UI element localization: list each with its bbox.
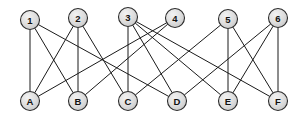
node-label-4: 4 — [172, 13, 178, 24]
node-layer: 123456ABCDEF — [21, 8, 288, 111]
node-5[interactable]: 5 — [219, 10, 238, 29]
graph-canvas: 123456ABCDEF — [0, 0, 307, 120]
node-label-1: 1 — [27, 15, 33, 26]
node-label-3: 3 — [125, 12, 130, 23]
edge-3-D — [133, 25, 172, 93]
node-label-A: A — [27, 96, 34, 107]
node-label-2: 2 — [75, 13, 80, 24]
node-label-E: E — [225, 96, 231, 107]
node-A[interactable]: A — [21, 92, 40, 111]
node-label-C: C — [125, 96, 132, 107]
node-C[interactable]: C — [119, 92, 138, 111]
node-D[interactable]: D — [168, 92, 187, 111]
node-6[interactable]: 6 — [269, 9, 288, 28]
node-2[interactable]: 2 — [69, 9, 88, 28]
node-label-F: F — [275, 96, 281, 107]
edge-3-F — [136, 22, 269, 97]
node-4[interactable]: 4 — [166, 9, 185, 28]
edge-layer — [30, 22, 278, 97]
node-label-B: B — [75, 96, 82, 107]
node-label-6: 6 — [275, 13, 280, 24]
bipartite-graph-diagram: 123456ABCDEF — [0, 0, 307, 120]
node-label-D: D — [174, 96, 181, 107]
edge-4-B — [85, 24, 168, 95]
node-3[interactable]: 3 — [119, 8, 138, 27]
node-1[interactable]: 1 — [21, 11, 40, 30]
node-B[interactable]: B — [69, 92, 88, 111]
node-E[interactable]: E — [219, 92, 238, 111]
node-F[interactable]: F — [269, 92, 288, 111]
node-label-5: 5 — [225, 14, 231, 25]
